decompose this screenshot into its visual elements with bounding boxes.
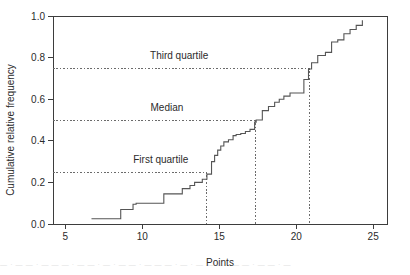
- ecdf-chart: 510152025 0.00.20.40.60.81.0 Third quart…: [0, 0, 410, 275]
- y-axis-ticks: 0.00.20.40.60.81.0: [31, 11, 53, 230]
- page-caption-artifact: — · — — · — — — · — — · — · — — · — — — …: [0, 261, 410, 273]
- y-tick-label: 0.2: [31, 177, 45, 188]
- x-tick-label: 20: [291, 231, 303, 242]
- x-tick-label: 10: [137, 231, 149, 242]
- ecdf-step-line: [91, 20, 362, 219]
- y-tick-label: 0.6: [31, 94, 45, 105]
- quartile-guide-lines: [53, 68, 309, 224]
- y-axis-title: Cumulative relative frequency: [5, 64, 16, 196]
- annotation-label-first-quartile: First quartile: [133, 154, 188, 165]
- quartile-annotations: Third quartileMedianFirst quartile: [133, 50, 209, 165]
- y-tick-label: 0.8: [31, 52, 45, 63]
- ecdf-curve: [91, 20, 362, 219]
- chart-canvas: 510152025 0.00.20.40.60.81.0 Third quart…: [0, 0, 410, 275]
- y-tick-label: 0.0: [31, 219, 45, 230]
- y-tick-label: 0.4: [31, 135, 45, 146]
- x-tick-label: 15: [214, 231, 226, 242]
- annotation-label-median: Median: [150, 102, 183, 113]
- x-axis-ticks: 510152025: [63, 224, 380, 242]
- x-tick-label: 5: [63, 231, 69, 242]
- y-tick-label: 1.0: [31, 11, 45, 22]
- annotation-label-third-quartile: Third quartile: [150, 50, 209, 61]
- x-tick-label: 25: [368, 231, 380, 242]
